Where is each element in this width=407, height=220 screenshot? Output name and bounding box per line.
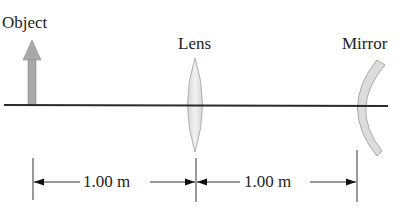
mirror-label: Mirror bbox=[342, 35, 387, 52]
optics-diagram bbox=[0, 0, 407, 220]
dimension-label-lens-mirror: 1.00 m bbox=[241, 173, 294, 190]
dimension-label-object-lens: 1.00 m bbox=[80, 173, 133, 190]
concave-mirror-icon bbox=[358, 60, 386, 156]
object-label: Object bbox=[2, 14, 47, 31]
optical-axis bbox=[4, 105, 388, 106]
lens-label: Lens bbox=[178, 35, 211, 52]
object-arrow-icon bbox=[23, 40, 41, 105]
